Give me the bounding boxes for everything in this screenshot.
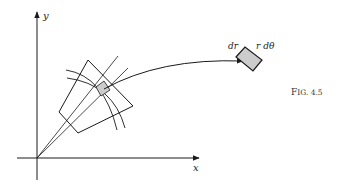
caption-rest: IG. 4.5 (297, 88, 323, 97)
y-axis-label: y (42, 10, 49, 21)
polar-area-element-diagram: y x dr r dθ FIG. 4.5 (0, 0, 344, 191)
figure-caption: FIG. 4.5 (291, 87, 323, 97)
shaded-area-element (96, 81, 110, 96)
x-axis-label: x (193, 162, 199, 173)
ray-1 (37, 56, 118, 158)
radial-rays (37, 56, 128, 158)
magnify-arrow (104, 61, 243, 89)
axes (17, 12, 199, 180)
r-dtheta-label: r dθ (256, 41, 275, 51)
dr-label: dr (228, 41, 239, 51)
